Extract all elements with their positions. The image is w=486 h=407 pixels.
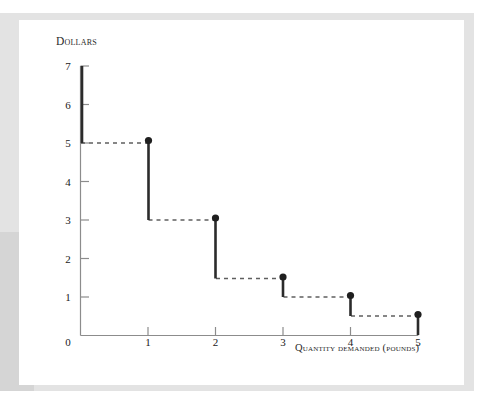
data-point-2-3 xyxy=(212,214,219,221)
x-tick-label-2: 2 xyxy=(206,336,226,348)
x-tick-label-5: 5 xyxy=(408,336,428,348)
y-tick-label-3: 3 xyxy=(58,214,78,226)
y-axis-title: Dollars xyxy=(56,35,97,47)
step-risers xyxy=(82,66,418,335)
y-tick-label-0: 0 xyxy=(58,336,78,348)
data-point-3-1p5 xyxy=(279,273,286,280)
axes xyxy=(81,66,419,336)
x-axis-ticks xyxy=(148,327,418,336)
y-tick-label-4: 4 xyxy=(58,176,78,188)
data-point-5-0p5 xyxy=(414,311,421,318)
x-tick-label-3: 3 xyxy=(273,336,293,348)
y-tick-label-6: 6 xyxy=(58,99,78,111)
step-treads xyxy=(81,143,418,316)
y-tick-label-5: 5 xyxy=(58,137,78,149)
data-point-1-5 xyxy=(145,137,152,144)
y-tick-label-7: 7 xyxy=(58,60,78,72)
x-tick-label-1: 1 xyxy=(138,336,158,348)
x-tick-label-4: 4 xyxy=(341,336,361,348)
y-tick-label-2: 2 xyxy=(58,253,78,265)
y-tick-label-1: 1 xyxy=(58,291,78,303)
data-point-4-1 xyxy=(347,292,354,299)
figure-page: Dollars Quantity demanded (pounds) 7 6 5… xyxy=(0,0,486,407)
